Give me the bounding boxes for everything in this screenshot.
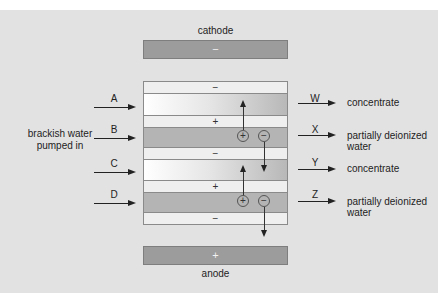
membrane-2: +: [143, 115, 288, 128]
outlet-label-x: partially deionized water: [347, 130, 427, 152]
arrowhead-right-icon: [128, 169, 136, 175]
membrane-1: −: [143, 81, 288, 94]
cathode-label: cathode: [143, 25, 288, 36]
inlet-arrow-d: [94, 203, 130, 204]
membrane-5: −: [143, 212, 288, 225]
outlet-label-z-line-1: partially deionized: [347, 196, 427, 207]
arrowhead-right-icon: [328, 198, 336, 204]
arrowhead-down-icon: [261, 165, 267, 172]
arrowhead-right-icon: [328, 100, 336, 106]
membrane-sign: −: [213, 82, 219, 93]
outlet-letter-x: X: [300, 124, 330, 135]
inlet-arrow-b: [94, 138, 130, 139]
inlet-letter-a: A: [99, 93, 129, 104]
membrane-sign: +: [213, 181, 219, 192]
inlet-label-line-2: pumped in: [20, 140, 100, 152]
outlet-label-x-line-2: water: [347, 141, 427, 152]
outlet-letter-y: Y: [300, 157, 330, 168]
anion-path-1: [264, 142, 265, 166]
outlet-letter-z: Z: [300, 189, 330, 200]
anion-path-2: [264, 207, 265, 231]
arrowhead-up-icon: [240, 165, 246, 172]
inlet-letter-c: C: [99, 158, 129, 169]
inlet-arrow-a: [94, 107, 130, 108]
anion-icon: −: [258, 130, 270, 142]
anode-sign: +: [212, 249, 218, 261]
outlet-arrow-z: [298, 201, 328, 202]
membrane-sign: −: [213, 213, 219, 224]
outlet-label-z-line-2: water: [347, 207, 427, 218]
cation-path-2: [243, 170, 244, 196]
outlet-arrow-y: [298, 169, 328, 170]
cathode-electrode: −: [143, 40, 288, 59]
inlet-letter-d: D: [99, 189, 129, 200]
anode-electrode: +: [143, 246, 288, 265]
membrane-sign: +: [213, 116, 219, 127]
outlet-arrow-x: [298, 135, 328, 136]
arrowhead-right-icon: [128, 104, 136, 110]
cation-icon: +: [237, 195, 249, 207]
outlet-arrow-w: [298, 103, 328, 104]
arrowhead-right-icon: [328, 166, 336, 172]
anion-icon: −: [258, 195, 270, 207]
membrane-sign: −: [213, 148, 219, 159]
membrane-4: +: [143, 180, 288, 193]
inlet-arrow-c: [94, 172, 130, 173]
inlet-label: brackish water pumped in: [20, 128, 100, 152]
arrowhead-up-icon: [240, 100, 246, 107]
outlet-label-x-line-1: partially deionized: [347, 130, 427, 141]
arrowhead-right-icon: [328, 132, 336, 138]
outlet-label-z: partially deionized water: [347, 196, 427, 218]
cathode-sign: −: [212, 43, 218, 55]
outlet-label-w: concentrate: [347, 97, 399, 108]
outlet-label-y: concentrate: [347, 163, 399, 174]
cation-icon: +: [237, 130, 249, 142]
arrowhead-right-icon: [128, 200, 136, 206]
arrowhead-down-icon: [261, 230, 267, 237]
anode-label: anode: [143, 268, 288, 279]
arrowhead-right-icon: [128, 135, 136, 141]
cation-path-1: [243, 105, 244, 130]
inlet-label-line-1: brackish water: [20, 128, 100, 140]
inlet-letter-b: B: [99, 124, 129, 135]
channel-a-concentrate: [143, 94, 288, 115]
membrane-3: −: [143, 147, 288, 160]
